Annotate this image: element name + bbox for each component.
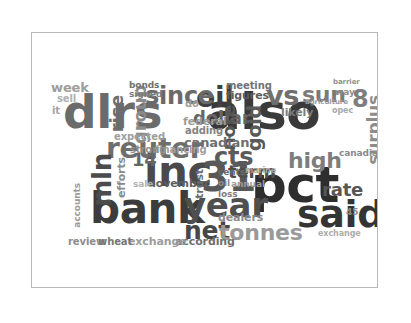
wordcloud-word: rise (108, 95, 126, 132)
wordcloud-word: accounts (73, 183, 82, 228)
wordcloud-word: figures (226, 91, 269, 102)
wordcloud-word: barrier (333, 79, 360, 86)
wordcloud-word: dealers (218, 213, 263, 224)
wordcloud-word: meeting (226, 81, 272, 91)
wordcloud-word: annual (231, 180, 265, 189)
wordcloud-word: expected (114, 132, 165, 142)
wordcloud-word: high (288, 150, 342, 172)
wordcloud-word: 45 (346, 208, 358, 217)
wordcloud-word: adding (185, 126, 223, 136)
wordcloud-word: rate (322, 181, 363, 199)
wordcloud-word: canadian (339, 149, 378, 158)
wordcloud-word: wheat (98, 237, 132, 247)
wordcloud-word: marine (245, 167, 276, 175)
wordcloud-word: opec (332, 107, 353, 115)
wordcloud-word: oil (218, 179, 230, 188)
wordcloud-word: signed (129, 90, 162, 99)
wordcloud-axes: dlrsalsopctbanksaidinc31yearreuteroilsin… (31, 32, 378, 288)
wordcloud-word: exchange (318, 230, 361, 238)
wordcloud-word: exchange (128, 237, 187, 248)
wordcloud-word: mln (90, 153, 115, 207)
wordcloud-word: sale (133, 180, 153, 189)
wordcloud-word: strong (130, 145, 166, 155)
wordcloud-word: way (335, 88, 355, 97)
wordcloud-canvas: dlrsalsopctbanksaidinc31yearreuteroilsin… (32, 33, 377, 287)
wordcloud-word: cents (218, 168, 245, 177)
wordcloud-figure: dlrsalsopctbanksaidinc31yearreuteroilsin… (0, 0, 411, 323)
wordcloud-word: do (185, 99, 199, 109)
wordcloud-word: it (52, 106, 60, 116)
wordcloud-word: trust (195, 169, 206, 199)
wordcloud-word: said (297, 196, 378, 233)
wordcloud-word: loss (218, 190, 238, 199)
wordcloud-word: likely (281, 108, 313, 119)
wordcloud-word: efforts (117, 157, 128, 198)
wordcloud-word: sell (57, 94, 76, 104)
wordcloud-word: agriculture (305, 99, 348, 106)
wordcloud-word: bonds (129, 81, 159, 90)
